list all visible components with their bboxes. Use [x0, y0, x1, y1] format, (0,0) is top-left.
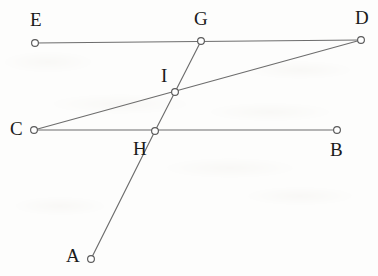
- point-label-E: E: [30, 10, 42, 29]
- point-label-I: I: [161, 66, 167, 85]
- point-label-D: D: [355, 8, 369, 27]
- vertex-point-G[interactable]: [198, 38, 205, 45]
- vertex-point-B[interactable]: [334, 127, 341, 134]
- vertex-point-D[interactable]: [358, 37, 365, 44]
- point-label-B: B: [330, 140, 343, 159]
- segment-CD: [34, 40, 361, 130]
- vertex-point-A[interactable]: [88, 256, 95, 263]
- vertex-point-I[interactable]: [172, 89, 179, 96]
- vertex-point-H[interactable]: [152, 128, 159, 135]
- point-label-G: G: [194, 9, 208, 28]
- geometry-figure-svg: [0, 0, 378, 276]
- point-label-H: H: [133, 139, 147, 158]
- vertex-point-C[interactable]: [31, 127, 38, 134]
- point-label-A: A: [66, 246, 80, 265]
- point-label-C: C: [10, 119, 23, 138]
- segment-IG: [175, 41, 201, 92]
- vertex-layer: [31, 37, 365, 263]
- segment-HI: [155, 92, 175, 131]
- geometry-figure-canvas: E G D I C H B A: [0, 0, 378, 276]
- segment-layer: [34, 40, 361, 259]
- vertex-point-E[interactable]: [32, 40, 39, 47]
